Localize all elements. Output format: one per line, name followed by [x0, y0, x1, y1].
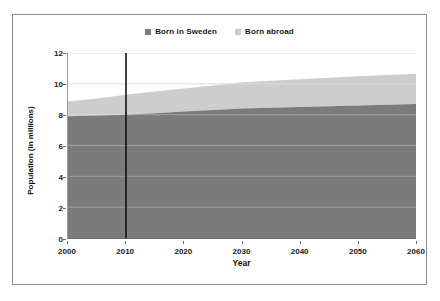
- x-axis-tick-mark: [242, 241, 243, 244]
- x-axis-tick-label: 2050: [349, 247, 367, 256]
- legend-swatch-born-in-sweden: [145, 29, 151, 35]
- legend-label-born-abroad: Born abroad: [245, 27, 294, 36]
- y-axis-tick-label: 0: [17, 235, 63, 244]
- plot-area: [67, 53, 416, 239]
- chart-figure: Born in Sweden Born abroad 024681012 200…: [0, 0, 440, 301]
- legend-swatch-born-abroad: [235, 29, 241, 35]
- x-axis-tick-label: 2010: [116, 247, 134, 256]
- y-axis-tick-label: 12: [17, 49, 63, 58]
- legend-label-born-in-sweden: Born in Sweden: [155, 27, 217, 36]
- x-axis-ticks: 2000201020202030204020502060: [67, 241, 416, 257]
- x-axis-title: Year: [67, 258, 416, 268]
- x-axis-tick-mark: [183, 241, 184, 244]
- y-axis-ticks: 024681012: [13, 53, 63, 239]
- y-axis-tick-label: 6: [17, 142, 63, 151]
- x-axis-tick-mark: [416, 241, 417, 244]
- y-axis-tick-mark: [63, 84, 66, 85]
- x-axis-tick-mark: [67, 241, 68, 244]
- y-axis-tick-mark: [63, 115, 66, 116]
- x-axis-tick-label: 2060: [407, 247, 425, 256]
- y-axis-tick-mark: [63, 53, 66, 54]
- y-axis-tick-mark: [63, 177, 66, 178]
- y-axis-tick-mark: [63, 239, 66, 240]
- x-axis-tick-mark: [125, 241, 126, 244]
- area-series-born-in-sweden: [68, 104, 416, 238]
- y-axis-tick-label: 8: [17, 111, 63, 120]
- y-axis-title: Population (in millions): [26, 76, 35, 226]
- y-axis-tick-label: 2: [17, 204, 63, 213]
- chart-legend: Born in Sweden Born abroad: [13, 27, 426, 36]
- legend-item-born-in-sweden: Born in Sweden: [145, 27, 217, 36]
- x-axis-tick-label: 2020: [174, 247, 192, 256]
- x-axis-tick-label: 2040: [291, 247, 309, 256]
- y-axis-tick-mark: [63, 146, 66, 147]
- y-axis-tick-label: 10: [17, 80, 63, 89]
- x-axis-tick-mark: [300, 241, 301, 244]
- x-axis-tick-mark: [358, 241, 359, 244]
- x-axis-tick-label: 2000: [58, 247, 76, 256]
- y-axis-tick-label: 4: [17, 173, 63, 182]
- x-axis-tick-label: 2030: [233, 247, 251, 256]
- chart-frame: Born in Sweden Born abroad 024681012 200…: [12, 14, 427, 285]
- legend-item-born-abroad: Born abroad: [235, 27, 294, 36]
- y-axis-tick-mark: [63, 208, 66, 209]
- area-chart-svg: [68, 53, 416, 238]
